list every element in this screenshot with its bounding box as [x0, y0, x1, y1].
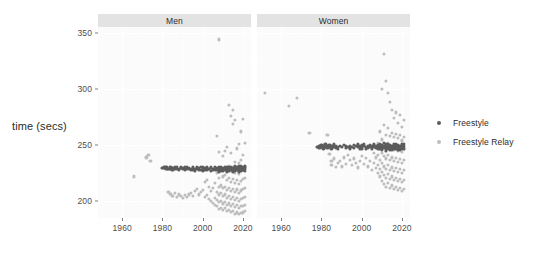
data-point [392, 136, 395, 139]
data-point [133, 175, 136, 178]
data-point [372, 161, 375, 164]
gridline-horizontal-minor [98, 61, 251, 62]
data-point [400, 171, 403, 174]
x-tick-mark [402, 218, 403, 221]
data-point [233, 191, 236, 194]
gridline-horizontal-minor [98, 117, 251, 118]
data-point [241, 118, 244, 121]
data-point [394, 166, 397, 169]
data-point [352, 157, 355, 160]
plot-area-men [98, 27, 251, 218]
gridline-vertical-major [162, 27, 163, 218]
data-point [235, 147, 238, 150]
gridline-horizontal-minor [98, 173, 251, 174]
data-point [380, 138, 383, 141]
data-point [402, 135, 405, 138]
x-tick-label: 1960 [113, 223, 132, 233]
data-point [233, 160, 236, 163]
data-point [372, 151, 375, 154]
data-point [237, 183, 240, 186]
data-point [227, 103, 230, 106]
data-point [233, 182, 236, 185]
legend-item-freestyle-relay[interactable]: Freestyle Relay [432, 132, 514, 151]
facet-panel-women: Women 1960198020002020 [257, 14, 410, 218]
gridline-vertical-minor [261, 27, 262, 218]
data-point [360, 155, 363, 158]
gridline-vertical-minor [342, 27, 343, 218]
data-point [195, 187, 198, 190]
data-point [334, 165, 337, 168]
data-point [205, 178, 208, 181]
data-point [394, 111, 397, 114]
x-tick-label: 2020 [392, 223, 411, 233]
x-tick-label: 2000 [352, 223, 371, 233]
data-point [201, 188, 204, 191]
data-point [354, 161, 357, 164]
data-point [394, 156, 397, 159]
data-point [384, 185, 387, 188]
x-tick-mark [203, 218, 204, 221]
data-point [241, 153, 244, 156]
legend-item-label: Freestyle [453, 118, 489, 128]
x-tick-label: 2000 [193, 223, 212, 233]
gridline-horizontal-minor [257, 117, 410, 118]
data-point [209, 189, 212, 192]
facet-panel-men: Men 1960198020002020 [98, 14, 251, 218]
data-point [368, 159, 371, 162]
legend-dot-icon [437, 140, 441, 144]
data-point [402, 178, 405, 181]
y-axis-title: time (secs) [12, 120, 67, 132]
legend-dot-icon [437, 121, 441, 125]
gridline-vertical-major [321, 27, 322, 218]
legend: FreestyleFreestyle Relay [432, 113, 514, 151]
data-point [243, 195, 246, 198]
y-tick-label: 250 [62, 140, 92, 150]
data-point [235, 188, 238, 191]
y-tick-label: 200 [62, 196, 92, 206]
data-point [332, 157, 335, 160]
data-point [386, 173, 389, 176]
y-axis: 200250300350 [60, 0, 98, 261]
x-tick-label: 2020 [233, 223, 252, 233]
data-point [217, 150, 220, 153]
x-tick-mark [243, 218, 244, 221]
x-axis-men: 1960198020002020 [98, 218, 251, 240]
data-point [384, 157, 387, 160]
x-tick-mark [362, 218, 363, 221]
data-point [243, 141, 246, 144]
data-point [215, 134, 218, 137]
legend-item-freestyle[interactable]: Freestyle [432, 113, 514, 132]
legend-item-label: Freestyle Relay [453, 137, 514, 147]
data-point [388, 134, 391, 137]
data-point [392, 169, 395, 172]
data-point [384, 167, 387, 170]
data-point [362, 162, 365, 165]
data-point [386, 153, 389, 156]
gridline-vertical-minor [142, 27, 143, 218]
data-point [400, 161, 403, 164]
data-point [217, 176, 220, 179]
data-point [344, 162, 347, 165]
gridline-vertical-major [281, 27, 282, 218]
data-point [356, 166, 359, 169]
data-point [346, 153, 349, 156]
data-point [243, 176, 246, 179]
data-point [263, 92, 266, 95]
gridline-vertical-major [362, 27, 363, 218]
data-point [211, 186, 214, 189]
x-tick-label: 1980 [153, 223, 172, 233]
facet-strip-women-label: Women [319, 16, 349, 26]
data-point [396, 160, 399, 163]
data-point [225, 146, 228, 149]
data-point [205, 193, 208, 196]
data-point [221, 155, 224, 158]
data-point [191, 194, 194, 197]
data-point [348, 159, 351, 162]
x-tick-mark [321, 218, 322, 221]
data-point [227, 176, 230, 179]
data-point [376, 153, 379, 156]
facet-strip-women: Women [257, 14, 410, 27]
data-point [370, 168, 373, 171]
data-point [366, 165, 369, 168]
data-point [308, 131, 311, 134]
